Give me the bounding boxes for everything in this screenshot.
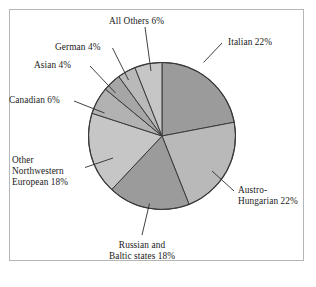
pie-label-italian: Italian 22%	[228, 37, 312, 48]
pie-label-canadian: Canadian 6%	[9, 95, 79, 106]
pie-label-austro-hungarian: Austro- Hungarian 22%	[238, 185, 316, 207]
pie-chart-figure: Italian 22% Austro- Hungarian 22% Russia…	[0, 0, 316, 287]
pie-label-german: German 4%	[55, 42, 125, 53]
pie-label-asian: Asian 4%	[34, 60, 94, 71]
pie-label-other-northwestern-european: Other Northwestern European 18%	[12, 155, 92, 189]
pie-label-all-others: All Others 6%	[109, 16, 199, 27]
pie-label-russian-baltic: Russian and Baltic states 18%	[79, 240, 205, 262]
pie-slices	[89, 63, 236, 210]
leader-line-italian	[204, 43, 223, 63]
